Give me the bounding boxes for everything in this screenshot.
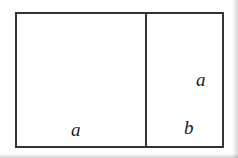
label-a-left: a — [71, 120, 81, 139]
figure-canvas: a b a — [0, 0, 238, 158]
scan-shadow-right — [232, 0, 238, 158]
label-b-bottom: b — [184, 118, 194, 137]
vertical-divider-line — [145, 12, 147, 148]
label-a-right: a — [196, 70, 206, 89]
scan-shadow-bottom — [0, 154, 238, 158]
